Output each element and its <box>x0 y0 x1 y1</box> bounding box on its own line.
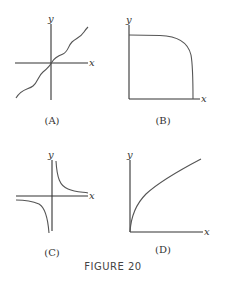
y-axis-label: y <box>125 14 132 25</box>
y-axis-label: y <box>126 149 133 160</box>
x-axis-label: x <box>89 57 95 68</box>
sqrt-curve <box>130 159 201 232</box>
panel-label: (D) <box>155 244 171 255</box>
panel-b: x y (B) <box>125 14 207 126</box>
panel-c: x y (C) <box>16 149 95 258</box>
figure-caption: FIGURE 20 <box>84 261 141 272</box>
hyperbola-branch-q3 <box>16 200 49 233</box>
panel-label: (B) <box>155 115 170 126</box>
panel-label: (C) <box>44 247 60 258</box>
figure-20: x y (A) x y (B) x y (C) x y (D) FIGURE 2… <box>0 0 227 287</box>
decreasing-curve <box>129 35 193 99</box>
y-axis-label: y <box>47 13 54 24</box>
panel-a: x y (A) <box>15 13 95 126</box>
panel-label: (A) <box>44 115 59 126</box>
x-axis-label: x <box>201 93 207 104</box>
x-axis-label: x <box>89 190 95 201</box>
x-axis-label: x <box>204 226 210 237</box>
panel-d: x y (D) <box>126 149 210 255</box>
hyperbola-branch-q1 <box>56 161 88 193</box>
y-axis-label: y <box>47 149 54 160</box>
